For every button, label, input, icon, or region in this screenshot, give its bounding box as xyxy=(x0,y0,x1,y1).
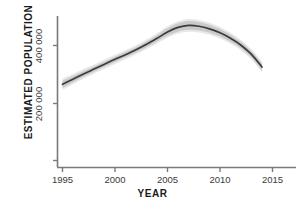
x-tick-label-2010: 2010 xyxy=(200,174,240,185)
confidence-band xyxy=(63,19,263,90)
x-tick-label-1995: 1995 xyxy=(43,174,83,185)
x-axis-title: YEAR xyxy=(0,188,305,199)
chart-figure: ESTIMATED POPULATION 400 000 200 000 199… xyxy=(0,0,305,208)
x-tick-label-2005: 2005 xyxy=(148,174,188,185)
axis-lines xyxy=(57,16,296,168)
x-tick-label-2000: 2000 xyxy=(95,174,135,185)
x-tick-label-2015: 2015 xyxy=(253,174,293,185)
